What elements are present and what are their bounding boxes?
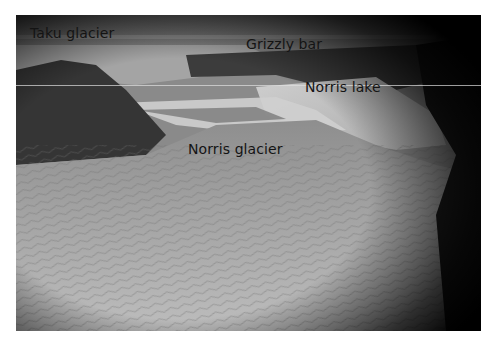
label-grizzly-bar: Grizzly bar [246,37,322,51]
aerial-photo [16,15,481,331]
label-norris-lake: Norris lake [305,80,381,94]
label-norris-glacier: Norris glacier [188,142,283,156]
label-taku-glacier: Taku glacier [30,26,114,40]
aerial-photo-scene [16,15,481,331]
